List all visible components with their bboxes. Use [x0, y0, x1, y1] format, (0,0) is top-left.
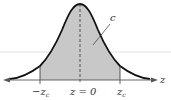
left-arrow-icon [3, 78, 10, 83]
center-label: z = 0 [69, 86, 97, 97]
area-label: c [110, 12, 116, 23]
right-arrow-icon [151, 78, 158, 83]
left-critical-label: −zc [32, 86, 50, 98]
axis-label: z [159, 74, 166, 85]
right-critical-label: zc [116, 86, 126, 98]
normal-curve-diagram: c z −zc z = 0 zc [0, 0, 171, 100]
